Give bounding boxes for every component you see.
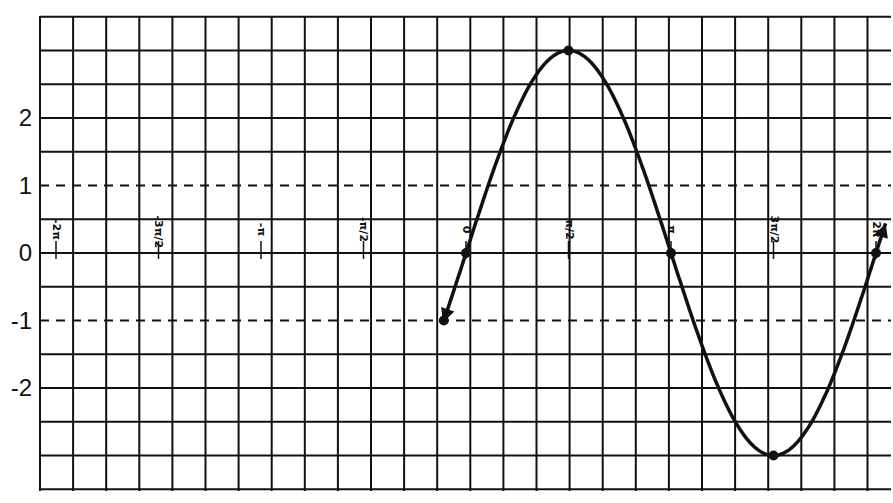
x-tick-label: -2π — [49, 216, 62, 244]
x-tick-label: 3π/2 — [767, 216, 780, 244]
data-point — [564, 46, 574, 56]
x-tick-label: π/2 — [562, 216, 575, 244]
data-point — [666, 248, 676, 258]
y-tick-label: 1 — [19, 174, 32, 198]
x-tick-label: -π/2 — [357, 216, 370, 244]
y-tick-label: 0 — [19, 241, 32, 265]
y-tick-label: -2 — [11, 376, 32, 400]
x-tick-label: 2π — [870, 216, 883, 244]
x-tick-label: 0 — [460, 216, 473, 244]
data-point — [769, 451, 779, 461]
y-tick-label: 2 — [19, 106, 32, 130]
data-point — [871, 248, 881, 258]
x-tick-label: -3π/2 — [152, 216, 165, 244]
x-tick-label: π — [665, 216, 678, 244]
sine-chart — [0, 0, 893, 503]
y-tick-label: -1 — [11, 309, 32, 333]
x-tick-label: -π — [254, 216, 267, 244]
data-point — [461, 248, 471, 258]
